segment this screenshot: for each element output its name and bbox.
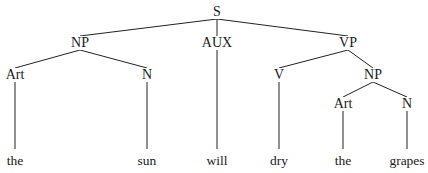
leaf-word-grapes: grapes xyxy=(389,154,424,168)
leaf-word-the-1: the xyxy=(7,154,24,168)
tree-edge xyxy=(279,50,348,68)
node-art-subject: Art xyxy=(5,68,26,82)
tree-edge xyxy=(15,50,80,68)
tree-edge xyxy=(348,50,373,68)
node-vp: VP xyxy=(338,36,358,50)
node-art-object: Art xyxy=(333,97,354,111)
node-np-subject: NP xyxy=(70,36,90,50)
node-n-object: N xyxy=(401,97,413,111)
tree-edge xyxy=(80,19,217,36)
parse-tree-edges xyxy=(0,0,428,173)
leaf-word-will: will xyxy=(206,154,227,168)
leaf-word-the-2: the xyxy=(335,154,352,168)
tree-edge xyxy=(80,50,147,68)
node-v: V xyxy=(273,68,285,82)
leaf-word-sun: sun xyxy=(138,154,157,168)
node-aux: AUX xyxy=(201,36,233,50)
node-np-object: NP xyxy=(363,68,383,82)
tree-edge xyxy=(343,82,373,97)
tree-edge xyxy=(217,19,348,36)
tree-edge xyxy=(373,82,407,97)
node-s: S xyxy=(212,5,222,19)
node-n-subject: N xyxy=(141,68,153,82)
leaf-word-dry: dry xyxy=(270,154,288,168)
